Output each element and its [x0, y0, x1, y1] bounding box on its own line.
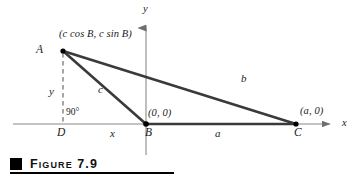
side-label-b: b — [241, 73, 247, 84]
vertex-label-b: B — [145, 127, 152, 139]
side-label-c: c — [98, 84, 103, 95]
vertex-a-point — [60, 48, 65, 53]
side-label-a: a — [215, 128, 221, 139]
y-axis-label: y — [143, 4, 148, 15]
right-angle-label: 90° — [66, 108, 79, 118]
figure-caption: Figure 7.9 — [10, 155, 176, 173]
x-axis-label: x — [342, 118, 347, 129]
caption-underline-rule — [10, 172, 174, 174]
figure-caption-text: Figure 7.9 — [30, 157, 98, 171]
figure-container: A (c cos B, c sin B) B (0, 0) C (a, 0) D… — [0, 0, 356, 177]
vertex-coord-label-c: (a, 0) — [300, 106, 323, 117]
vertex-label-a: A — [36, 44, 43, 56]
altitude-label-y: y — [49, 86, 54, 97]
square-bullet-icon — [10, 158, 22, 170]
vertex-label-d: D — [57, 127, 65, 139]
base-label-x: x — [110, 128, 115, 139]
vertex-coord-label-b: (0, 0) — [148, 108, 171, 119]
vertex-label-c: C — [294, 127, 302, 139]
vertex-coord-label-a: (c cos B, c sin B) — [59, 29, 132, 40]
